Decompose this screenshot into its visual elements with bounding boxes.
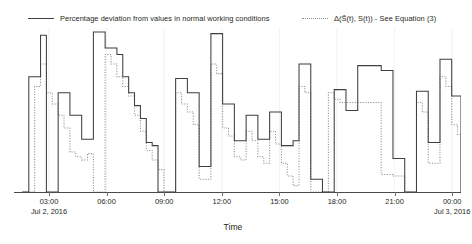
x-axis-tick-time: 21:00 bbox=[385, 197, 404, 207]
chart-canvas bbox=[14, 28, 461, 192]
x-axis-tick-label: 12:00 bbox=[213, 197, 232, 207]
legend-swatch-solid-line-icon bbox=[28, 18, 54, 19]
legend-swatch-dotted-line-icon bbox=[302, 18, 328, 19]
plot-area bbox=[14, 28, 461, 192]
x-axis-tick-time: 03:00 bbox=[31, 197, 67, 207]
x-axis-tick bbox=[164, 192, 165, 196]
x-axis-tick-label: 21:00 bbox=[385, 197, 404, 207]
x-axis-tick bbox=[279, 192, 280, 196]
series-line-percentage-deviation bbox=[22, 32, 461, 192]
x-axis-tick-labels: 03:00Jul 2, 201606:0009:0012:0015:0018:0… bbox=[14, 197, 461, 223]
x-axis-title-text: Time bbox=[224, 222, 243, 232]
x-axis-tick-time: 15:00 bbox=[270, 197, 289, 207]
x-axis-tick bbox=[107, 192, 108, 196]
legend-label-delta-equation: Δ(S̃(t), S(t)) - See Equation (3) bbox=[334, 14, 436, 23]
x-axis-tick-label: 09:00 bbox=[155, 197, 174, 207]
x-axis-tick bbox=[49, 192, 50, 196]
chart-figure: Percentage deviation from values in norm… bbox=[0, 0, 472, 244]
x-axis-tick-label: 06:00 bbox=[97, 197, 116, 207]
series-line-delta-equation bbox=[22, 54, 461, 192]
legend-entry-percentage-deviation[interactable]: Percentage deviation from values in norm… bbox=[28, 14, 270, 23]
x-axis-tick-label: 18:00 bbox=[328, 197, 347, 207]
vertical-gridlines bbox=[49, 28, 452, 192]
x-axis-tick-time: 18:00 bbox=[328, 197, 347, 207]
legend-label-percentage-deviation: Percentage deviation from values in norm… bbox=[60, 14, 270, 23]
x-axis-tick-label: 15:00 bbox=[270, 197, 289, 207]
legend-entry-delta-equation[interactable]: Δ(S̃(t), S(t)) - See Equation (3) bbox=[302, 14, 436, 23]
x-axis-tick-time: 09:00 bbox=[155, 197, 174, 207]
x-axis-tick-label: 03:00Jul 2, 2016 bbox=[31, 197, 67, 217]
x-axis-tick-date: Jul 3, 2016 bbox=[434, 207, 470, 217]
x-axis-tick-time: 06:00 bbox=[97, 197, 116, 207]
x-axis-tick-label: 00:00Jul 3, 2016 bbox=[434, 197, 470, 217]
x-axis-tick-time: 12:00 bbox=[213, 197, 232, 207]
x-axis-tick bbox=[222, 192, 223, 196]
x-axis-tick bbox=[395, 192, 396, 196]
x-axis-tick bbox=[452, 192, 453, 196]
x-axis-ticks bbox=[14, 192, 461, 196]
x-axis-tick-time: 00:00 bbox=[434, 197, 470, 207]
x-axis-tick bbox=[337, 192, 338, 196]
chart-legend: Percentage deviation from values in norm… bbox=[0, 8, 472, 28]
x-axis-tick-date: Jul 2, 2016 bbox=[31, 207, 67, 217]
x-axis-title: Time bbox=[0, 222, 472, 232]
